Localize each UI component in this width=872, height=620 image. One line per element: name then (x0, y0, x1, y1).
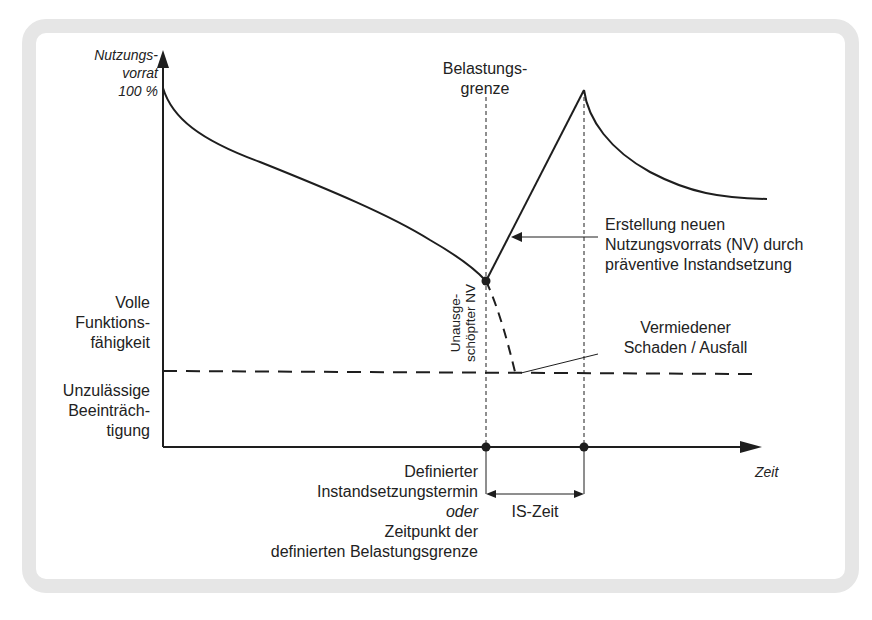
definierter-line5: definierten Belastungsgrenze (228, 542, 478, 562)
unzulaessige-line1: Unzulässige (40, 381, 150, 401)
is-zeit-right-arrow-icon (574, 490, 584, 498)
unausgeschoepfter-line1: Unausge- (448, 278, 463, 368)
y-axis-label-line1: Nutzungs- (80, 46, 158, 64)
erstellung-line2: Nutzungsvorrats (NV) durch (605, 235, 803, 255)
y-axis-arrow-icon (157, 50, 169, 68)
vermiedener-line1: Vermiedener (598, 318, 773, 338)
unausgeschoepfter-nv-label: Unausge- schöpfter NV (448, 278, 478, 368)
definierter-line3: oder (228, 502, 478, 522)
definierter-line1: Definierter (228, 462, 478, 482)
unausgeschoepfter-line2: schöpfter NV (463, 278, 478, 368)
is-zeit-bracket (486, 447, 584, 498)
erstellung-line1: Erstellung neuen (605, 215, 803, 235)
unzulaessige-beeintraechtigung-label: Unzulässige Beeinträch- tigung (40, 381, 150, 441)
definierter-line2: Instandsetzungstermin (228, 482, 478, 502)
vermiedener-label: Vermiedener Schaden / Ausfall (598, 318, 773, 358)
instandsetzung-rise-line (486, 90, 584, 281)
belastungsgrenze-label: Belastungs- grenze (420, 59, 550, 99)
erstellung-pointer-arrow-icon (511, 232, 522, 242)
volle-line2: Funktions- (40, 313, 150, 333)
belastungsgrenze-line1: Belastungs- (420, 59, 550, 79)
vermiedener-line2: Schaden / Ausfall (598, 338, 773, 358)
volle-line3: fähigkeit (40, 333, 150, 353)
avoided-failure-dashed-curve (486, 281, 515, 372)
volle-line1: Volle (40, 293, 150, 313)
x-axis (163, 441, 762, 453)
definierter-line4: Zeitpunkt der (228, 522, 478, 542)
definierter-termin-label: Definierter Instandsetzungstermin oder Z… (228, 462, 478, 562)
y-axis-label-line3: 100 % (80, 82, 158, 100)
y-axis-label-line2: vorrat (80, 64, 158, 82)
x-axis-arrow-icon (740, 441, 762, 453)
nutzungsvorrat-curve (163, 88, 486, 281)
volle-funktionsfaehigkeit-label: Volle Funktions- fähigkeit (40, 293, 150, 353)
y-axis (157, 50, 169, 447)
erstellung-label: Erstellung neuen Nutzungsvorrats (NV) du… (605, 215, 803, 275)
threshold-dashed-line (163, 371, 752, 374)
erstellung-line3: präventive Instandsetzung (605, 255, 803, 275)
belastungsgrenze-line2: grenze (420, 79, 550, 99)
y-axis-label: Nutzungs- vorrat 100 % (80, 46, 158, 100)
vermiedener-pointer-line (521, 354, 598, 373)
unzulaessige-line3: tigung (40, 421, 150, 441)
is-zeit-left-arrow-icon (486, 490, 496, 498)
is-zeit-label: IS-Zeit (486, 502, 584, 521)
unausgeschoepfter-point (482, 277, 491, 286)
new-nutzungsvorrat-curve (584, 90, 767, 199)
unzulaessige-line2: Beeinträch- (40, 401, 150, 421)
x-axis-label: Zeit (755, 463, 778, 482)
